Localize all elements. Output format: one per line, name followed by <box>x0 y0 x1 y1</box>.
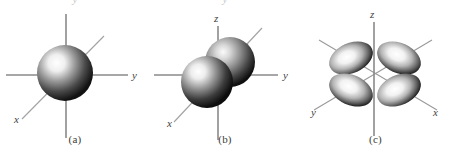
panel-c-d-orbital: z x y (c) <box>300 0 451 168</box>
panel-b-p-orbital: y <box>150 0 300 168</box>
axis-label-z-c: z <box>369 8 375 20</box>
axis-label-y-a: y <box>131 69 137 81</box>
axis-label-y-c: y <box>310 106 316 118</box>
panel-a-s-orbital: y y x (a) <box>0 0 150 168</box>
d-orbital-lobe-lower-left <box>324 67 378 113</box>
axis-label-x-a: x <box>13 113 19 125</box>
axis-label-x-b: x <box>166 117 172 129</box>
cropped-text-above-panel-a: y <box>0 0 150 5</box>
p-orbital-lobe-front <box>181 56 233 108</box>
d-orbital-lobe-upper-right <box>372 35 426 81</box>
cropped-text-above-panel-b: y <box>150 0 300 5</box>
s-orbital-sphere <box>37 45 93 101</box>
d-orbital-lobe-lower-right <box>372 67 426 113</box>
orbital-figure: y y x (a) <box>0 0 451 168</box>
axis-label-x-c: x <box>432 106 438 118</box>
axis-label-z-b: z <box>213 12 219 24</box>
panel-c-caption: (c) <box>300 133 451 145</box>
axis-label-y-b: y <box>282 69 288 81</box>
d-orbital-lobe-upper-left <box>324 35 378 81</box>
panel-a-caption: (a) <box>0 133 150 145</box>
panel-b-caption: (b) <box>150 133 300 145</box>
panel-c-axes <box>314 40 437 110</box>
